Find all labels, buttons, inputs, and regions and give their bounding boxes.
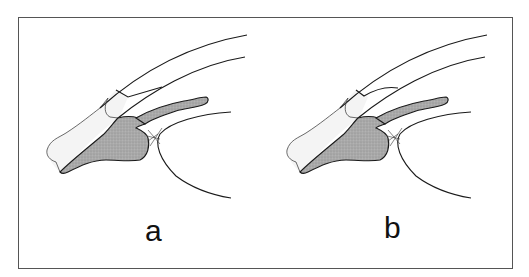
panel-label-a: a bbox=[145, 216, 162, 246]
panel-b bbox=[287, 35, 487, 198]
panel-a bbox=[47, 35, 247, 198]
notch-rounded bbox=[356, 87, 398, 96]
panel-label-b: b bbox=[384, 213, 401, 243]
anatomical-diagram bbox=[0, 0, 529, 277]
